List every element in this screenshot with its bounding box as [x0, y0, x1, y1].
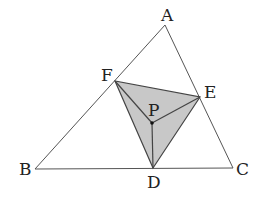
point-p-dot [150, 121, 154, 125]
label-e: E [204, 82, 216, 102]
label-c: C [236, 159, 249, 179]
label-f: F [101, 65, 113, 85]
geometry-diagram: A B C D E F P [0, 0, 268, 201]
label-a: A [160, 5, 174, 25]
label-p: P [148, 100, 159, 120]
label-d: D [147, 172, 161, 192]
label-b: B [19, 159, 32, 179]
